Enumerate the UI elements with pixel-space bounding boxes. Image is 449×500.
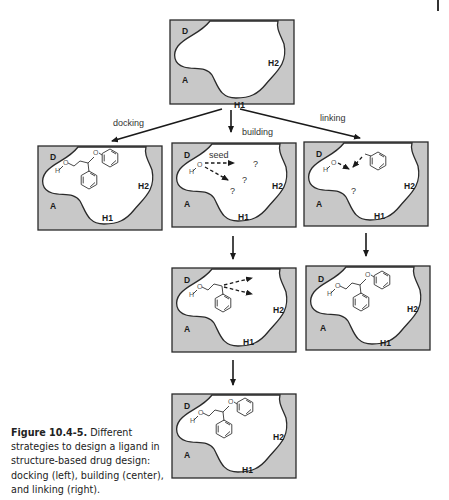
atom-o: O	[335, 282, 341, 289]
pocket-building-result: D A H2 H1 H O O	[172, 394, 296, 478]
atom-h: H	[189, 291, 194, 298]
label-h1: H1	[380, 338, 391, 348]
atom-o: O	[365, 271, 371, 278]
atom-h: H	[190, 417, 195, 424]
atom-o: O	[197, 283, 203, 290]
atom-o: O	[331, 159, 337, 166]
label-h2: H2	[138, 181, 149, 191]
label-h1: H1	[238, 212, 249, 222]
label-a: A	[182, 75, 188, 85]
pocket-linking-result: D A H2 H1 H O O	[306, 266, 430, 350]
unknown-mark: ?	[351, 186, 356, 196]
label-a: A	[184, 199, 190, 209]
unknown-mark: ?	[253, 159, 258, 169]
label-d: D	[184, 150, 190, 160]
label-h1: H1	[102, 213, 113, 223]
drug-design-diagram: D A H2 H1 docking building linking D A H…	[0, 0, 449, 500]
label-linking: linking	[320, 113, 346, 123]
label-h2: H2	[268, 58, 279, 68]
pocket-docking: D A H2 H1 H O O	[38, 146, 162, 230]
label-h1: H1	[243, 337, 254, 347]
unknown-mark: ?	[242, 175, 247, 185]
label-d: D	[184, 401, 190, 411]
label-seed: seed	[209, 150, 229, 160]
label-h1: H1	[374, 211, 385, 221]
label-a: A	[320, 323, 326, 333]
label-a: A	[50, 201, 56, 211]
pocket-linking-fragments: D A H2 H1 H O ?	[304, 142, 428, 226]
label-building: building	[242, 127, 273, 137]
atom-h: H	[189, 168, 194, 175]
label-d: D	[182, 26, 188, 36]
label-docking: docking	[113, 118, 144, 128]
label-h2: H2	[404, 181, 415, 191]
label-h2: H2	[407, 304, 418, 314]
atom-h: H	[327, 290, 332, 297]
label-d: D	[184, 275, 190, 285]
label-h1: H1	[242, 465, 253, 475]
label-a: A	[184, 324, 190, 334]
pocket-building-seed: D A H2 H1 H O seed ? ? ?	[172, 143, 296, 227]
atom-h: H	[55, 167, 60, 174]
label-h1: H1	[234, 100, 245, 110]
label-a: A	[184, 450, 190, 460]
atom-o: O	[93, 149, 99, 156]
figure-label: Figure 10.4-5.	[11, 427, 87, 438]
atom-o: O	[198, 409, 204, 416]
label-h2: H2	[273, 432, 284, 442]
figure-caption: Figure 10.4-5. Different strategies to d…	[11, 426, 181, 497]
unknown-mark: ?	[230, 186, 235, 196]
atom-o: O	[197, 161, 203, 168]
atom-o: O	[63, 159, 69, 166]
pocket-empty: D A H2 H1	[170, 20, 294, 110]
atom-h: H	[323, 166, 328, 173]
pocket-building-grow: D A H2 H1 H O	[172, 268, 296, 352]
label-d: D	[50, 152, 56, 162]
label-a: A	[316, 199, 322, 209]
label-h2: H2	[273, 305, 284, 315]
label-d: D	[316, 149, 322, 159]
label-d: D	[318, 274, 324, 284]
label-h2: H2	[272, 181, 283, 191]
atom-o: O	[228, 398, 234, 405]
